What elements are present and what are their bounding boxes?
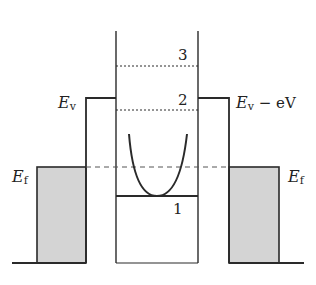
right-fermi-sea	[229, 167, 279, 263]
left-barrier-label: Ev	[57, 93, 77, 113]
right-barrier-label: Ev − eV	[235, 93, 297, 113]
left-fermi-label: Ef	[11, 167, 29, 187]
level-1-label: 1	[173, 200, 183, 218]
band-diagram: 3 2 1 Ev Ev − eV Ef Ef	[0, 0, 316, 285]
level-2-label: 2	[178, 91, 188, 109]
left-barrier	[86, 98, 116, 263]
dispersion-parabola	[129, 134, 187, 196]
right-barrier	[198, 98, 229, 263]
left-fermi-sea	[37, 167, 86, 263]
level-3-label: 3	[178, 46, 188, 64]
right-fermi-label: Ef	[287, 167, 305, 187]
